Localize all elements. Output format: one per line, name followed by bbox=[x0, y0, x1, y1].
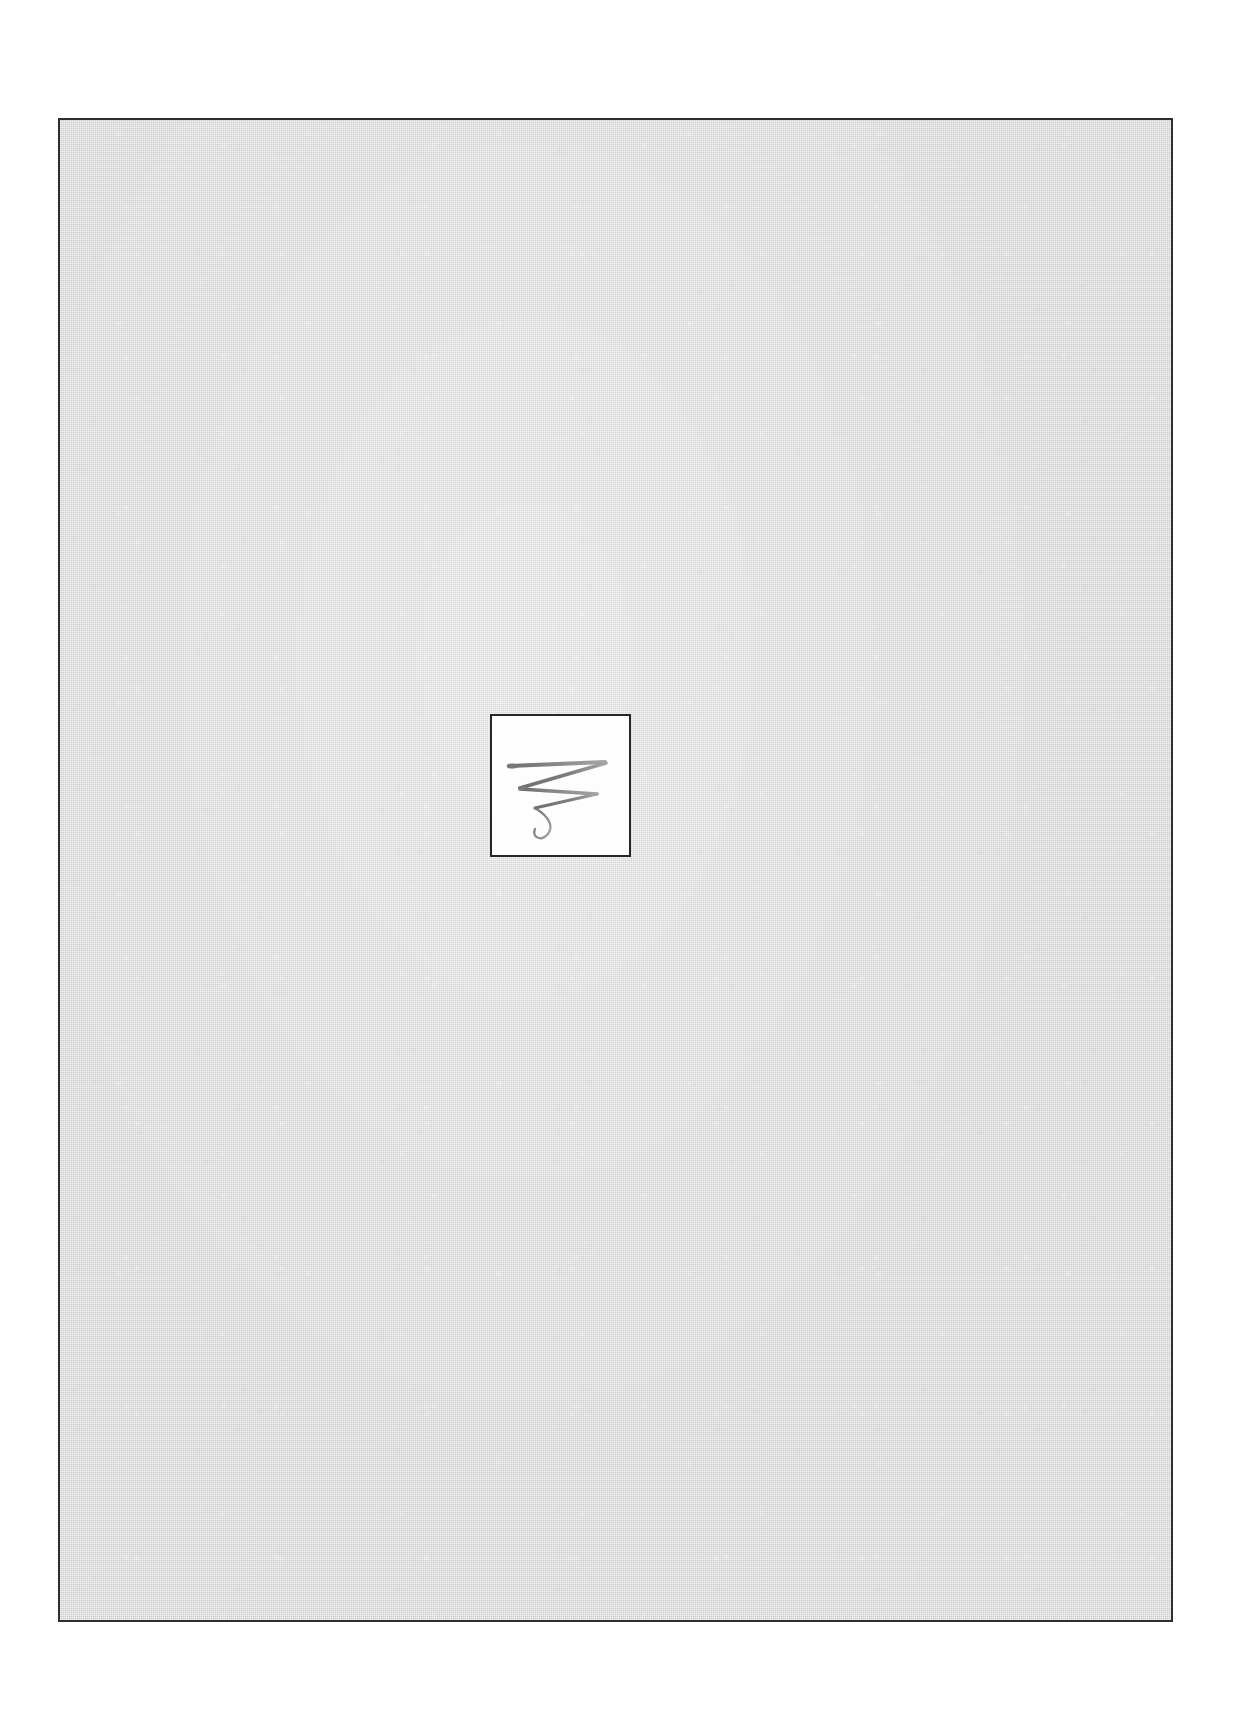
scribble-segment-3 bbox=[520, 789, 597, 794]
page-canvas bbox=[0, 0, 1234, 1728]
scanned-sheet-frame bbox=[58, 118, 1173, 1622]
scribble-segment-4 bbox=[535, 794, 597, 808]
zigzag-scribble-icon bbox=[492, 716, 629, 855]
paper-grain-texture bbox=[60, 120, 1171, 1620]
scribble-start-blob bbox=[507, 763, 517, 768]
scribble-segment-1 bbox=[510, 762, 605, 766]
scribble-tail-curl bbox=[534, 808, 550, 838]
centered-drawing-card[interactable] bbox=[490, 714, 631, 857]
